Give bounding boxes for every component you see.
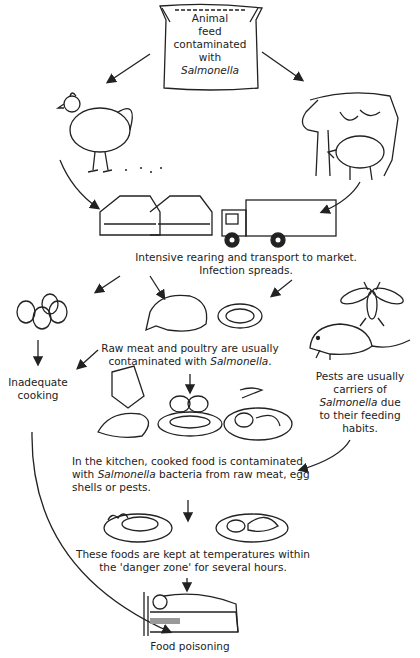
meat-eggs-plate-icon <box>158 396 222 436</box>
glove-cloth-icon <box>98 366 149 437</box>
node-rearing: Intensive rearing and transport to marke… <box>96 251 396 277</box>
raw-meat-line2a: contaminated with <box>108 355 210 367</box>
fly-icon <box>339 282 405 326</box>
rat-icon <box>310 324 410 360</box>
node-feed: Animal feed contaminated with Salmonella <box>168 12 252 77</box>
raw-meat-icon <box>146 295 262 331</box>
node-pests: Pests are usually carriers of Salmonella… <box>310 370 410 435</box>
danger-line2: the 'danger zone' for several hours. <box>68 561 318 574</box>
steak-plate-icon <box>104 514 172 542</box>
kitchen-line3: shells or pests. <box>72 481 332 494</box>
feed-line5: Salmonella <box>168 64 252 77</box>
raw-meat-line1: Raw meat and poultry are usually <box>100 342 280 355</box>
pests-line2: carriers of <box>310 383 410 396</box>
kitchen-line2c: bacteria from raw meat, egg <box>156 468 310 480</box>
rearing-line1: Intensive rearing and transport to marke… <box>96 251 396 264</box>
node-inadequate: Inadequate cooking <box>2 376 74 402</box>
feed-line4: with <box>168 51 252 64</box>
pests-line1: Pests are usually <box>310 370 410 383</box>
sick-person-bed-icon <box>144 592 238 636</box>
kitchen-line1: In the kitchen, cooked food is contamina… <box>72 455 332 468</box>
inadequate-line1: Inadequate <box>2 376 74 389</box>
feed-line3: contaminated <box>168 38 252 51</box>
kitchen-line2b: Salmonella <box>98 468 156 480</box>
node-kitchen: In the kitchen, cooked food is contamina… <box>72 455 332 494</box>
farm-truck-icon <box>100 196 336 247</box>
danger-line1: These foods are kept at temperatures wit… <box>68 548 318 561</box>
poisoning-line1: Food poisoning <box>140 640 240 653</box>
pests-line3a: Salmonella <box>319 396 377 408</box>
rearing-line2: Infection spreads. <box>96 264 396 277</box>
pests-line3b: due <box>377 396 400 408</box>
chicken-icon <box>58 93 162 172</box>
node-raw-meat: Raw meat and poultry are usually contami… <box>100 342 280 368</box>
kitchen-line2a: with <box>72 468 98 480</box>
eggs-icon <box>17 294 67 329</box>
feed-line1: Animal <box>168 12 252 25</box>
node-food-poisoning: Food poisoning <box>140 640 240 653</box>
cow-pig-icon <box>302 93 398 180</box>
node-danger-zone: These foods are kept at temperatures wit… <box>68 548 318 574</box>
pests-line4: to their feeding <box>310 409 410 422</box>
inadequate-line2: cooking <box>2 389 74 402</box>
pests-line5: habits. <box>310 422 410 435</box>
feed-line2: feed <box>168 25 252 38</box>
chicken-plate-icon <box>216 514 288 542</box>
raw-meat-line2c: . <box>268 355 271 367</box>
cooked-plate-icon <box>224 388 292 440</box>
raw-meat-line2b: Salmonella <box>210 355 268 367</box>
